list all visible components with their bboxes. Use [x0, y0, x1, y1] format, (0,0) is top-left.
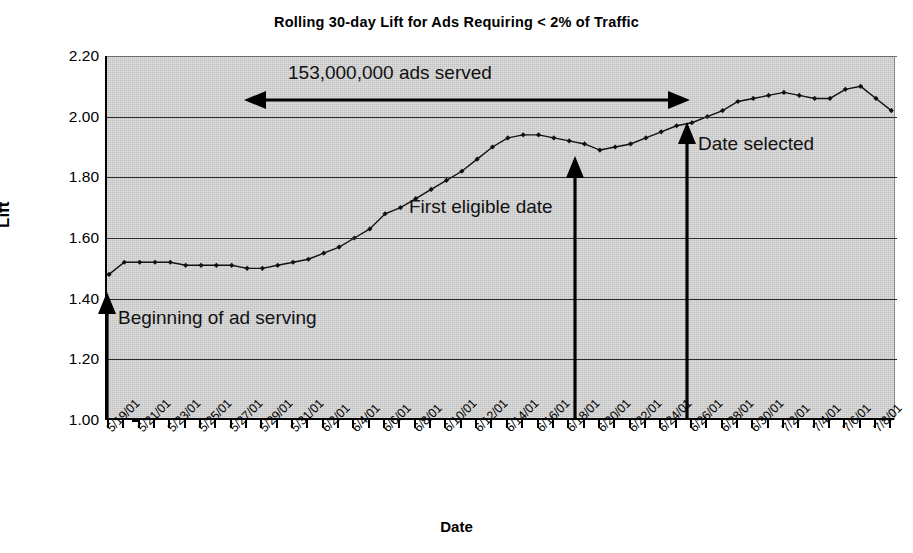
- series-marker: [244, 266, 249, 271]
- series-marker: [797, 93, 802, 98]
- series-line: [109, 86, 891, 274]
- y-tick-label: 1.20: [41, 350, 99, 368]
- series-marker: [290, 260, 295, 265]
- series-marker: [613, 144, 618, 149]
- plot-area: [105, 56, 895, 420]
- series-marker: [275, 263, 280, 268]
- y-tick-label: 1.80: [41, 168, 99, 186]
- y-tick-label: 2.00: [41, 108, 99, 126]
- series-marker: [781, 90, 786, 95]
- series-marker: [812, 96, 817, 101]
- series-marker: [597, 147, 602, 152]
- y-axis-title: Lift: [0, 202, 14, 228]
- gridline: [107, 238, 897, 239]
- plot-inner: [107, 56, 895, 418]
- y-axis-ticks: 2.202.001.801.601.401.201.00: [33, 56, 99, 420]
- annotation-beginning-of-ad-serving: Beginning of ad serving: [118, 307, 317, 329]
- y-tick-label: 1.40: [41, 290, 99, 308]
- gridline: [107, 117, 897, 118]
- series-marker: [674, 123, 679, 128]
- series-marker: [536, 132, 541, 137]
- series-marker: [659, 129, 664, 134]
- series-marker: [689, 120, 694, 125]
- gridline: [107, 359, 897, 360]
- series-marker: [214, 263, 219, 268]
- series-marker: [306, 257, 311, 262]
- series-marker: [766, 93, 771, 98]
- chart-title: Rolling 30-day Lift for Ads Requiring < …: [0, 14, 913, 30]
- y-tick-label: 2.20: [41, 47, 99, 65]
- x-axis-title: Date: [0, 518, 913, 535]
- series-marker: [137, 260, 142, 265]
- gridline: [107, 177, 897, 178]
- series-marker: [229, 263, 234, 268]
- series-marker: [152, 260, 157, 265]
- series-marker: [198, 263, 203, 268]
- y-tick-label: 1.00: [41, 411, 99, 429]
- series-marker: [643, 135, 648, 140]
- series-marker: [751, 96, 756, 101]
- series-marker: [183, 263, 188, 268]
- series-marker: [628, 141, 633, 146]
- gridline: [107, 299, 897, 300]
- series-marker: [321, 251, 326, 256]
- series-marker: [260, 266, 265, 271]
- series-marker: [582, 141, 587, 146]
- annotation-first-eligible-date: First eligible date: [409, 196, 553, 218]
- series-marker: [521, 132, 526, 137]
- series-marker: [551, 135, 556, 140]
- series-marker: [567, 138, 572, 143]
- series-marker: [168, 260, 173, 265]
- annotation-date-selected: Date selected: [698, 133, 814, 155]
- annotation-ads-served: 153,000,000 ads served: [288, 62, 492, 84]
- y-tick-label: 1.60: [41, 229, 99, 247]
- chart-container: Rolling 30-day Lift for Ads Requiring < …: [0, 0, 913, 553]
